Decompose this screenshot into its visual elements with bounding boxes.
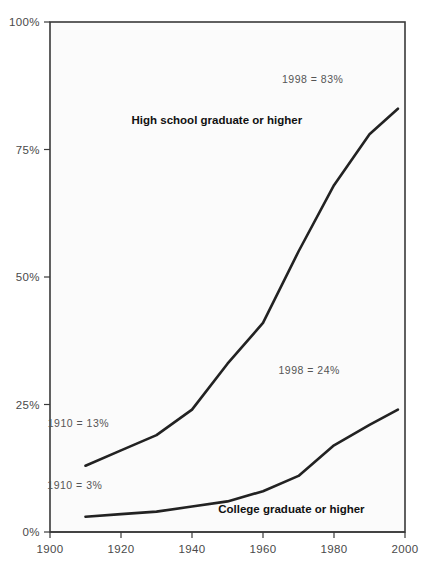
series-label-high-school: High school graduate or higher	[132, 114, 303, 126]
x-tick-label-2000: 2000	[391, 543, 418, 555]
x-axis-ticks	[50, 532, 405, 538]
chart-container: 100% 75% 50% 25% 0% 1900 1920 1940 1960 …	[0, 0, 426, 567]
y-tick-label-25: 25%	[16, 399, 40, 411]
x-tick-label-1920: 1920	[107, 543, 134, 555]
education-attainment-line-chart: 100% 75% 50% 25% 0% 1900 1920 1940 1960 …	[0, 0, 426, 567]
x-tick-label-1960: 1960	[249, 543, 276, 555]
x-tick-label-1900: 1900	[36, 543, 63, 555]
x-tick-label-1940: 1940	[178, 543, 205, 555]
annotation-high-school-start: 1910 = 13%	[48, 417, 109, 429]
y-tick-label-0: 0%	[23, 526, 40, 538]
y-axis-ticks	[44, 22, 50, 532]
y-tick-label-75: 75%	[16, 144, 40, 156]
x-tick-label-1980: 1980	[320, 543, 347, 555]
series-label-college: College graduate or higher	[218, 503, 365, 515]
annotation-high-school-end: 1998 = 83%	[282, 73, 343, 85]
y-tick-label-50: 50%	[16, 271, 40, 283]
annotation-college-end: 1998 = 24%	[278, 364, 339, 376]
annotation-college-start: 1910 = 3%	[47, 479, 102, 491]
y-tick-label-100: 100%	[9, 16, 40, 28]
plot-area-background	[50, 22, 405, 532]
